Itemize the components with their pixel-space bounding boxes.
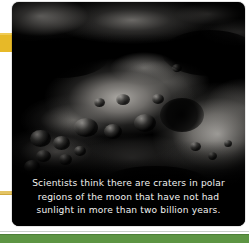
crater [74,146,86,156]
page-canvas: Scientists think there are craters in po… [0,0,249,243]
photo-caption: Scientists think there are craters in po… [12,177,245,217]
polar-shadow-region [12,38,108,78]
crater [94,98,105,107]
crater [53,136,70,150]
crater [190,142,201,151]
crater [116,94,130,105]
crater [224,140,232,147]
caption-line-2: regions of the moon that have not had [22,191,235,204]
moon-surface-photo: Scientists think there are craters in po… [12,2,245,226]
crater [74,118,98,137]
crater [134,114,156,132]
crater [152,94,164,104]
caption-line-3: sunlight in more than two billion years. [22,204,235,217]
crater [208,152,217,160]
footer-green-band [0,234,249,243]
caption-line-1: Scientists think there are craters in po… [22,177,235,190]
crater [30,130,51,147]
crater [59,154,72,165]
footer-hairline [0,231,249,232]
crater [24,160,40,173]
crater [36,150,51,162]
crater [104,124,122,139]
polar-shadow-region [162,30,245,76]
polar-shadow-region [160,98,204,132]
crater [172,64,182,72]
